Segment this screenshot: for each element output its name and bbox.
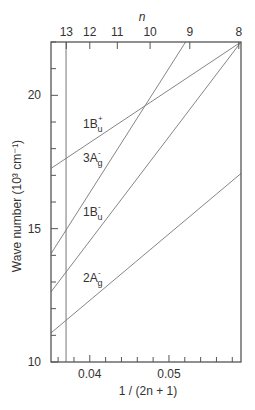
series-label: 1B: [83, 205, 98, 219]
top-n-tick-label: 12: [83, 25, 97, 39]
series-line-2ag: [51, 173, 241, 332]
top-n-tick-label: 11: [111, 25, 124, 39]
top-n-tick-label: 8: [235, 25, 242, 39]
series-label-subscript: g: [98, 278, 103, 288]
energy-level-chart: 1015200.040.0513121110981 / (2n + 1)nWav…: [0, 0, 255, 410]
series-label: 1B: [83, 117, 98, 131]
series-label-subscript: u: [98, 124, 103, 134]
x-axis-title: 1 / (2n + 1): [119, 384, 177, 398]
top-n-tick-label: 10: [143, 25, 157, 39]
y-tick-label: 15: [28, 222, 42, 236]
series-label-subscript: u: [98, 212, 103, 222]
series-line-1bu: [51, 42, 241, 292]
series-label-superscript: -: [98, 268, 101, 277]
y-axis-title: Wave number (10³ cm⁻¹): [10, 140, 24, 272]
series-lines: [51, 42, 241, 362]
plot-frame: [51, 42, 241, 362]
x-tick-label: 0.04: [78, 367, 102, 381]
series-line-1bu: [51, 42, 241, 168]
series-label-superscript: +: [98, 114, 103, 123]
series-line-3ag: [51, 42, 186, 254]
series-label: 2A: [83, 271, 98, 285]
y-tick-label: 10: [28, 355, 42, 369]
series-label-subscript: g: [98, 158, 103, 168]
top-n-tick-label: 9: [186, 25, 193, 39]
y-tick-label: 20: [28, 88, 42, 102]
axis-ticks: [51, 42, 239, 362]
plot-border: [51, 42, 241, 362]
series-label: 3A: [83, 151, 98, 165]
top-axis-title: n: [139, 10, 146, 24]
series-label-superscript: -: [98, 148, 101, 157]
chart-container: 1015200.040.0513121110981 / (2n + 1)nWav…: [0, 0, 255, 410]
axis-labels: 1015200.040.0513121110981 / (2n + 1)nWav…: [10, 10, 242, 398]
top-n-tick-label: 13: [60, 25, 74, 39]
x-tick-label: 0.05: [157, 367, 181, 381]
series-label-superscript: -: [98, 202, 101, 211]
